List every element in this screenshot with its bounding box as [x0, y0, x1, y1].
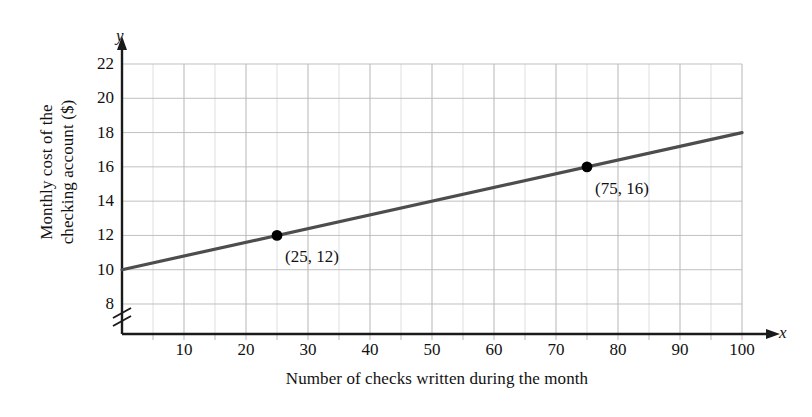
y-tick-label-22: 22	[80, 55, 114, 72]
y-tick-label-12: 12	[80, 226, 114, 243]
point-annotation-1: (75, 16)	[595, 179, 649, 199]
x-tick-label-90: 90	[650, 341, 710, 358]
y-axis-title: Monthly cost of thechecking account ($)	[36, 22, 80, 322]
x-axis-title: Number of checks written during the mont…	[122, 369, 752, 389]
point-annotation-0: (25, 12)	[285, 247, 339, 267]
x-tick-label-70: 70	[526, 341, 586, 358]
x-tick-label-40: 40	[340, 341, 400, 358]
y-axis-variable-letter: y	[116, 26, 124, 46]
x-axis-arrowhead	[766, 329, 780, 339]
y-tick-label-16: 16	[80, 158, 114, 175]
y-tick-label-18: 18	[80, 124, 114, 141]
x-tick-label-20: 20	[216, 341, 276, 358]
x-tick-label-30: 30	[278, 341, 338, 358]
x-tick-label-80: 80	[588, 341, 648, 358]
data-point-marker-0	[272, 230, 283, 241]
data-point-marker-1	[582, 161, 593, 172]
y-axis-title-line-1: Monthly cost of the	[37, 104, 56, 240]
x-tick-label-60: 60	[464, 341, 524, 358]
y-tick-label-8: 8	[80, 295, 114, 312]
x-tick-label-100: 100	[712, 341, 772, 358]
x-tick-label-50: 50	[402, 341, 462, 358]
y-tick-label-14: 14	[80, 192, 114, 209]
x-axis-tick-labels: 102030405060708090100	[0, 341, 812, 365]
y-axis-title-line-2: checking account ($)	[58, 100, 77, 245]
x-axis-variable-letter: x	[779, 323, 787, 343]
y-tick-label-20: 20	[80, 89, 114, 106]
y-tick-label-10: 10	[80, 261, 114, 278]
x-tick-label-10: 10	[154, 341, 214, 358]
chart-figure: 810121416182022 102030405060708090100 y …	[0, 0, 812, 417]
